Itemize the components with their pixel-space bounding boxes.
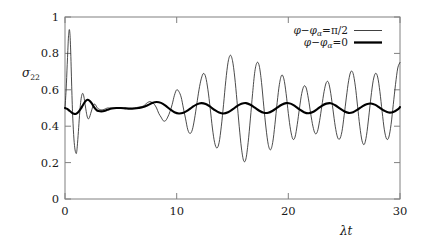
y-tick-label: 0.4 bbox=[41, 119, 59, 133]
chart-svg: 0 0.2 0.4 0.6 0.8 1 0 10 20 30 σ22 λt bbox=[0, 0, 422, 244]
figure-container: 0 0.2 0.4 0.6 0.8 1 0 10 20 30 σ22 λt bbox=[0, 0, 422, 244]
y-tick-label: 0.8 bbox=[41, 46, 59, 60]
svg-text:σ22: σ22 bbox=[22, 66, 40, 82]
y-tick-label: 0.2 bbox=[41, 156, 59, 170]
legend-0-lhs: φ−φ bbox=[293, 24, 317, 36]
legend: φ−φα=π/2 φ−φα=0 bbox=[293, 24, 382, 50]
x-tick-label: 10 bbox=[169, 204, 184, 218]
x-tick-labels: 0 10 20 30 bbox=[61, 204, 407, 218]
x-tick-label: 0 bbox=[61, 204, 68, 218]
series-line-phi-pi-over-2 bbox=[65, 30, 400, 162]
y-axis-title-subscript: 22 bbox=[30, 73, 40, 82]
y-axis-title: σ22 bbox=[22, 66, 40, 82]
y-tick-label: 1 bbox=[52, 10, 59, 24]
x-axis-title: λt bbox=[339, 224, 353, 238]
y-tick-label: 0 bbox=[52, 192, 59, 206]
legend-entry-label-1: φ−φα=0 bbox=[304, 36, 348, 50]
y-tick-label: 0.6 bbox=[41, 83, 59, 97]
x-tick-label: 30 bbox=[393, 204, 408, 218]
legend-1-lhs: φ−φ bbox=[304, 36, 328, 48]
y-tick-labels: 0 0.2 0.4 0.6 0.8 1 bbox=[41, 10, 59, 206]
series-line-phi-zero bbox=[65, 100, 400, 114]
legend-0-rhs: =π/2 bbox=[322, 24, 348, 36]
x-axis-title-symbol: λt bbox=[339, 224, 353, 238]
legend-1-rhs: =0 bbox=[333, 36, 348, 48]
x-tick-label: 20 bbox=[281, 204, 296, 218]
